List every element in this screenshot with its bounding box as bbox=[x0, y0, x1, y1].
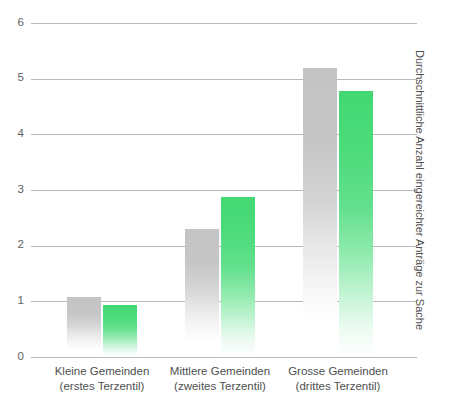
bar-gray-mittlere-gemeinden[interactable] bbox=[185, 229, 219, 357]
category-label-line1: Kleine Gemeinden bbox=[55, 365, 150, 377]
category-label-line2: (drittes Terzentil) bbox=[257, 379, 419, 394]
bar-green-grosse-gemeinden[interactable] bbox=[339, 91, 373, 357]
y-tick-0: 0 bbox=[2, 351, 24, 363]
gridline-0 bbox=[31, 357, 417, 358]
category-label-line1: Grosse Gemeinden bbox=[288, 365, 388, 377]
category-label-grosse-gemeinden: Grosse Gemeinden (drittes Terzentil) bbox=[257, 364, 419, 394]
bar-gray-grosse-gemeinden[interactable] bbox=[303, 68, 337, 357]
category-labels: Kleine Gemeinden (erstes Terzentil) Mitt… bbox=[31, 364, 417, 404]
bar-gray-kleine-gemeinden[interactable] bbox=[67, 297, 101, 357]
category-label-line1: Mittlere Gemeinden bbox=[170, 365, 270, 377]
plot-area bbox=[31, 23, 417, 357]
y-axis-title: Durchschnittliche Anzahl eingereichter A… bbox=[410, 23, 430, 357]
y-tick-4: 4 bbox=[2, 128, 24, 140]
bar-chart: 6 5 4 3 2 1 0 bbox=[0, 0, 470, 419]
y-tick-1: 1 bbox=[2, 295, 24, 307]
y-tick-2: 2 bbox=[2, 239, 24, 251]
y-tick-3: 3 bbox=[2, 184, 24, 196]
bar-green-mittlere-gemeinden[interactable] bbox=[221, 197, 255, 357]
y-tick-5: 5 bbox=[2, 72, 24, 84]
bars-layer bbox=[31, 23, 417, 357]
bar-green-kleine-gemeinden[interactable] bbox=[103, 305, 137, 357]
y-tick-6: 6 bbox=[2, 17, 24, 29]
